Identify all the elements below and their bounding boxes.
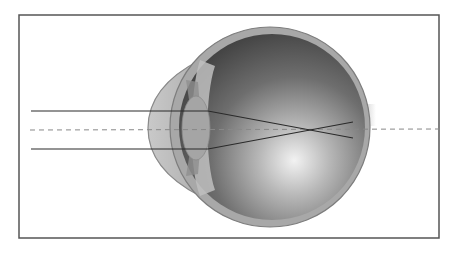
eye-diagram xyxy=(0,0,454,254)
lens xyxy=(182,96,210,160)
focal-point xyxy=(307,129,309,131)
